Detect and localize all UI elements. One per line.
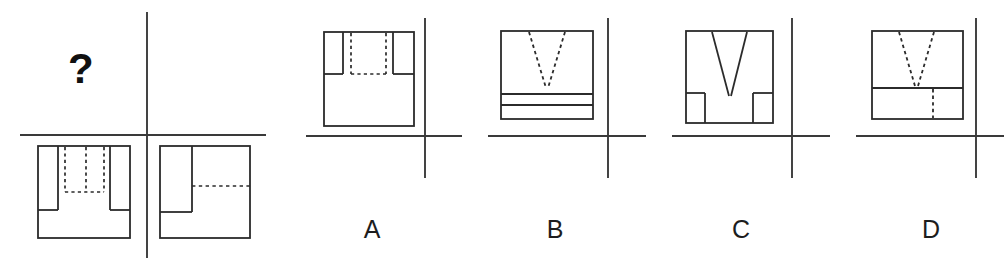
option-b-hidden-vee-left [529, 32, 546, 88]
given-view-bottom-left [38, 146, 130, 238]
missing-view-question-mark: ? [68, 48, 94, 90]
option-c-outline [686, 31, 773, 123]
option-label-c[interactable]: C [721, 215, 761, 244]
option-a-group[interactable] [306, 18, 462, 178]
option-c-vee-right [731, 32, 747, 96]
option-label-b[interactable]: B [535, 215, 575, 244]
option-c-vee-left [712, 32, 729, 96]
option-label-a[interactable]: A [352, 215, 392, 244]
projection-puzzle: ? A B C D [0, 0, 1006, 265]
given-view-bottom-right [160, 146, 250, 238]
option-d-hidden-vee-right [918, 32, 934, 86]
given-views-group [20, 12, 266, 258]
option-c-group[interactable] [672, 18, 830, 178]
given-right-outline [160, 146, 250, 238]
puzzle-drawing-canvas [0, 0, 1006, 265]
option-b-group[interactable] [488, 18, 646, 178]
option-d-hidden-vee-left [899, 32, 915, 86]
option-d-group[interactable] [856, 18, 1004, 178]
option-label-d[interactable]: D [911, 215, 951, 244]
option-b-hidden-vee-right [548, 32, 565, 88]
given-left-outline [38, 146, 130, 238]
option-d-outline [872, 31, 963, 119]
option-a-outline [324, 32, 414, 126]
